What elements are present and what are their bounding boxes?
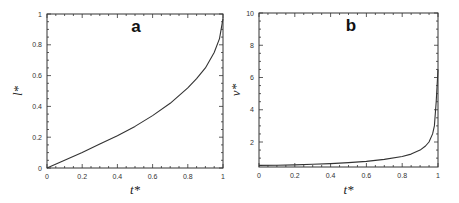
x-tick-label: 0.8	[183, 173, 193, 180]
y-tick-label: 8	[250, 42, 254, 49]
y-tick-label: 0.2	[32, 134, 42, 141]
chart-panel-b: 00.20.40.60.81246810bt*v*	[228, 10, 440, 198]
x-tick-label: 0.2	[77, 173, 87, 180]
panel-label: a	[131, 17, 141, 36]
y-tick-label: 2	[250, 139, 254, 146]
x-tick-label: 0	[257, 172, 261, 179]
chart-figure: 00.20.40.60.8100.20.40.60.81at*l*00.20.4…	[0, 0, 459, 203]
x-tick-label: 0	[45, 173, 49, 180]
panel-label: b	[346, 16, 356, 35]
x-tick-label: 0.4	[113, 173, 123, 180]
x-tick-label: 0.4	[326, 172, 336, 179]
data-line	[259, 69, 438, 165]
x-tick-label: 0.2	[290, 172, 300, 179]
x-axis-label: t*	[343, 182, 354, 197]
plot-frame	[259, 13, 438, 167]
y-axis-label: v*	[228, 83, 243, 96]
x-tick-label: 0.8	[397, 172, 407, 179]
y-tick-label: 1	[38, 11, 42, 18]
x-tick-label: 1	[436, 172, 440, 179]
plot-frame	[47, 14, 223, 168]
y-tick-label: 4	[250, 106, 254, 113]
y-tick-label: 0.4	[32, 103, 42, 110]
x-tick-label: 0.6	[362, 172, 372, 179]
y-tick-label: 6	[250, 74, 254, 81]
x-axis-label: t*	[130, 182, 141, 197]
y-tick-label: 0	[38, 165, 42, 172]
y-axis-label: l*	[10, 85, 25, 96]
y-tick-label: 0.6	[32, 72, 42, 79]
x-tick-label: 0.6	[148, 173, 158, 180]
x-tick-label: 1	[221, 173, 225, 180]
chart-panel-a: 00.20.40.60.8100.20.40.60.81at*l*	[10, 11, 225, 198]
y-tick-label: 10	[246, 10, 254, 17]
data-line	[47, 19, 223, 168]
y-tick-label: 0.8	[32, 41, 42, 48]
